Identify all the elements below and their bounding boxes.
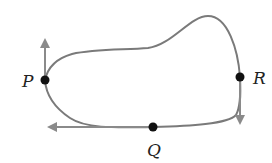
closed-curve — [45, 16, 240, 127]
curve-diagram-svg: P Q R — [0, 0, 272, 163]
point-q — [149, 123, 158, 132]
label-p: P — [21, 71, 34, 91]
label-r: R — [252, 68, 266, 88]
point-p — [41, 76, 50, 85]
label-q: Q — [147, 140, 161, 160]
diagram: P Q R — [0, 0, 272, 163]
point-r — [236, 73, 245, 82]
